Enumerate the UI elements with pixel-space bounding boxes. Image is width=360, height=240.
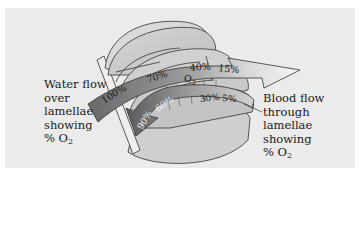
water-value-40: 40% bbox=[189, 61, 211, 73]
water-label-line: % O2 bbox=[44, 132, 107, 146]
blood-label-line: through bbox=[263, 106, 324, 120]
water-value-15: 15% bbox=[218, 62, 240, 75]
water-label-line: Water flow bbox=[44, 78, 107, 92]
blood-label-line: Blood flow bbox=[263, 92, 324, 106]
water-flow-label: Water flow over lamellae showing % O2 bbox=[44, 78, 107, 146]
blood-label-line: showing bbox=[263, 133, 324, 147]
blood-flow-label: Blood flow through lamellae showing % O2 bbox=[263, 92, 324, 160]
blood-value-30: 30% bbox=[199, 92, 220, 104]
blood-value-5: 5% bbox=[222, 93, 237, 104]
water-label-line: showing bbox=[44, 119, 107, 133]
water-label-line: lamellae bbox=[44, 105, 107, 119]
blood-label-line: % O2 bbox=[263, 146, 324, 160]
water-label-line: over bbox=[44, 92, 107, 106]
blood-label-line: lamellae bbox=[263, 119, 324, 133]
